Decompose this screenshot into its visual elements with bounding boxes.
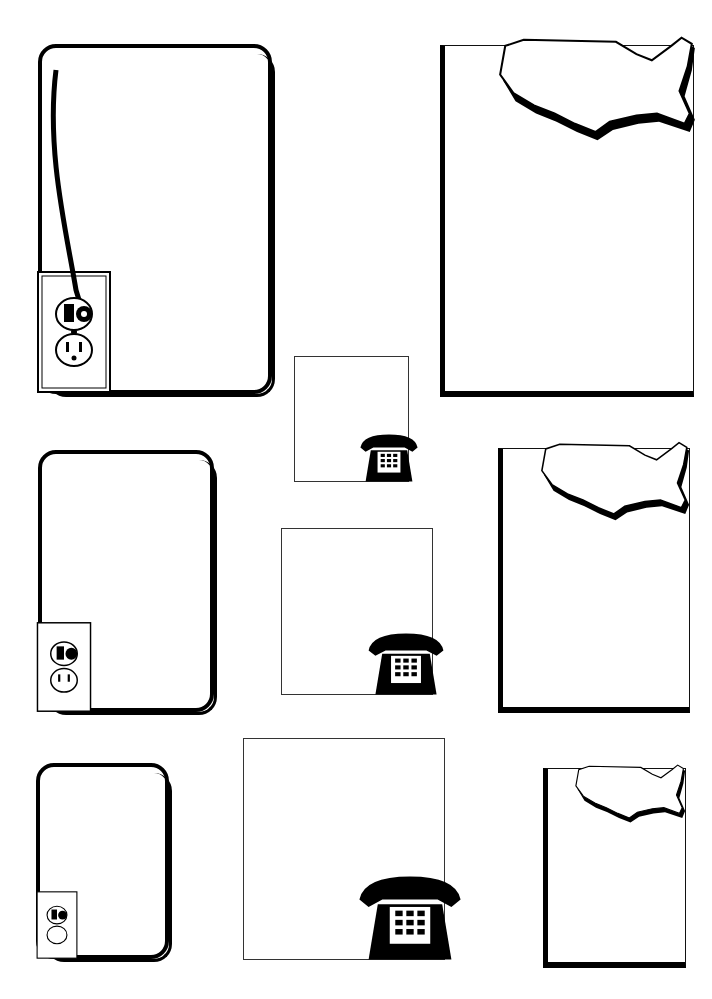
wall-outlet-icon	[36, 890, 78, 960]
telephone-icon	[352, 872, 468, 964]
us-map-icon	[573, 764, 688, 826]
wall-outlet-icon	[36, 621, 92, 713]
us-map-icon	[495, 38, 700, 144]
telephone-icon	[357, 432, 421, 484]
us-map-icon	[538, 442, 693, 524]
wall-outlet-icon	[36, 270, 112, 394]
telephone-icon	[363, 630, 449, 698]
